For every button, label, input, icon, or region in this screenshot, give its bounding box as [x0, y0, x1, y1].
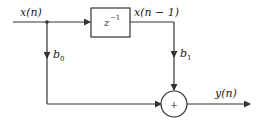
input-label: x(n): [20, 6, 42, 19]
delay-block: z −1: [91, 8, 130, 37]
b0-label: b0: [53, 48, 65, 63]
output-label: y(n): [214, 87, 237, 100]
delay-label-base: z: [103, 17, 110, 28]
fir-filter-diagram: x(n) z −1 x(n − 1) b0 b1 + y(n): [0, 0, 264, 123]
adder-node: +: [161, 91, 187, 117]
delayed-label: x(n − 1): [134, 6, 179, 19]
adder-symbol: +: [170, 99, 178, 110]
delay-label-exp: −1: [110, 14, 120, 22]
b1-label: b1: [180, 47, 192, 62]
